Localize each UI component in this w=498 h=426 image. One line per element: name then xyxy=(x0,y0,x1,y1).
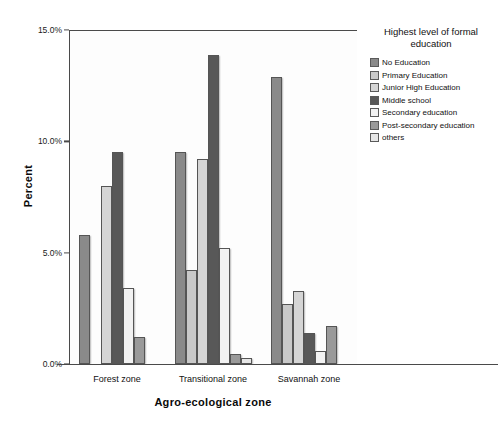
bar xyxy=(197,159,208,364)
bar xyxy=(79,235,90,364)
y-tick-label: 15.0% xyxy=(38,25,69,35)
x-tick-label: Transitional zone xyxy=(179,374,247,384)
bar xyxy=(134,337,145,364)
legend-swatch xyxy=(370,83,379,92)
bar xyxy=(175,152,186,364)
legend-item[interactable]: Primary Education xyxy=(370,70,496,81)
y-tick-label: 5.0% xyxy=(43,248,69,258)
bar xyxy=(112,152,123,364)
bar-group-bars xyxy=(261,30,357,364)
bar xyxy=(293,291,304,364)
legend-item[interactable]: Middle school xyxy=(370,95,496,106)
bar-chart: Percent 0.0%5.0%10.0%15.0% Forest zoneTr… xyxy=(0,0,498,426)
legend-swatch xyxy=(370,121,379,130)
legend-item-label: Post-secondary education xyxy=(382,121,475,130)
bar xyxy=(282,304,293,364)
bar xyxy=(186,270,197,364)
bar-group: Savannah zone xyxy=(261,30,357,364)
bar xyxy=(208,55,219,365)
plot-area: 0.0%5.0%10.0%15.0% Forest zoneTransition… xyxy=(69,30,357,364)
legend-item-label: No Education xyxy=(382,58,430,67)
y-tick-label: 10.0% xyxy=(38,136,69,146)
bar-group-bars xyxy=(165,30,261,364)
legend-swatch xyxy=(370,108,379,117)
bar xyxy=(326,326,337,364)
legend-title: Highest level of formal education xyxy=(370,26,492,50)
legend-item-label: Secondary education xyxy=(382,108,457,117)
legend-item-label: Primary Education xyxy=(382,71,447,80)
x-tick-label: Savannah zone xyxy=(278,374,341,384)
bar xyxy=(304,333,315,364)
bar xyxy=(101,186,112,364)
legend-item[interactable]: No Education xyxy=(370,57,496,68)
bar xyxy=(123,288,134,364)
bar-group-bars xyxy=(69,30,165,364)
x-tick-label: Forest zone xyxy=(93,374,141,384)
legend-swatch xyxy=(370,58,379,67)
bar-group: Transitional zone xyxy=(165,30,261,364)
legend-item[interactable]: Junior High Education xyxy=(370,82,496,93)
bar xyxy=(219,248,230,364)
legend-item[interactable]: Post-secondary education xyxy=(370,120,496,131)
legend-item-label: others xyxy=(382,133,404,142)
legend-item[interactable]: Secondary education xyxy=(370,107,496,118)
y-axis-title: Percent xyxy=(22,136,34,236)
legend-item[interactable]: others xyxy=(370,132,496,143)
bar xyxy=(271,77,282,364)
x-axis-title: Agro-ecological zone xyxy=(69,396,357,408)
bar-group: Forest zone xyxy=(69,30,165,364)
legend-item-label: Middle school xyxy=(382,96,431,105)
legend: Highest level of formal education No Edu… xyxy=(370,26,496,145)
x-axis-line xyxy=(57,364,498,365)
legend-swatch xyxy=(370,96,379,105)
legend-swatch xyxy=(370,71,379,80)
legend-item-label: Junior High Education xyxy=(382,83,460,92)
bar xyxy=(315,351,326,364)
legend-items: No EducationPrimary EducationJunior High… xyxy=(370,57,496,143)
bar xyxy=(230,354,241,364)
legend-swatch xyxy=(370,133,379,142)
